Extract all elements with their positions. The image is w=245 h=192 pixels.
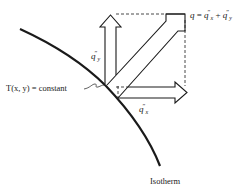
heat-flux-diagram xyxy=(0,0,245,192)
resultant-equation-label: q = q″x + q″y xyxy=(190,9,232,21)
equals-sign: = xyxy=(195,10,205,20)
qx-label-sub: x xyxy=(145,109,148,115)
plus-sign: + xyxy=(213,10,223,20)
qx-label: q″x xyxy=(139,103,148,115)
qx-arrow xyxy=(118,82,187,103)
isotherm-equation-label: T(x, y) = constant xyxy=(6,84,67,93)
qy-label-sub: y xyxy=(97,56,100,62)
qy-label: q″y xyxy=(91,50,100,62)
isotherm-label: Isotherm xyxy=(150,177,180,186)
qy-term-sub: y xyxy=(229,15,232,21)
label-leader-line xyxy=(84,84,104,89)
qy-arrow xyxy=(100,15,121,85)
